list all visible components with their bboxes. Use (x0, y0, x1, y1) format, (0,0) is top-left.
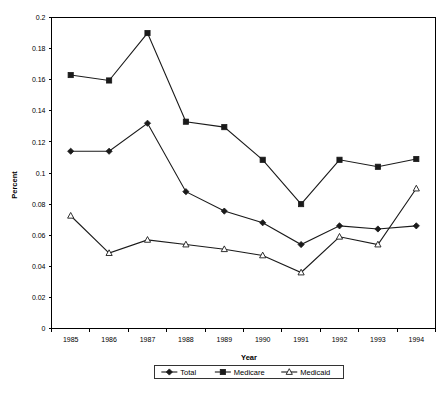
y-tick-label: 0.2 (36, 14, 46, 21)
x-tick-label: 1992 (332, 336, 348, 343)
marker-square (183, 119, 188, 124)
y-tick-label: 0.14 (32, 107, 46, 114)
y-tick-label: 0.06 (32, 232, 46, 239)
marker-square (68, 72, 73, 77)
x-tick-label: 1989 (217, 336, 233, 343)
legend-label: Medicare (234, 368, 265, 377)
marker-square (299, 202, 304, 207)
marker-square (414, 156, 419, 161)
y-tick-label: 0.12 (32, 139, 46, 146)
marker-square (337, 157, 342, 162)
y-tick-label: 0.08 (32, 201, 46, 208)
chart-figure: 00.020.040.060.080.10.120.140.160.180.2 … (0, 0, 447, 398)
legend-label: Medicaid (300, 368, 330, 377)
legend-label: Total (180, 368, 196, 377)
marker-square (107, 78, 112, 83)
x-tick-label: 1994 (409, 336, 425, 343)
y-tick-label: 0 (42, 325, 46, 332)
x-tick-label: 1990 (255, 336, 271, 343)
line-chart: 00.020.040.060.080.10.120.140.160.180.2 … (0, 0, 447, 398)
y-tick-label: 0.02 (32, 294, 46, 301)
chart-legend: TotalMedicareMedicaid (154, 366, 343, 379)
x-tick-label: 1986 (101, 336, 117, 343)
marker-square (220, 369, 225, 374)
x-tick-label: 1991 (293, 336, 309, 343)
y-axis-title: Percent (10, 171, 19, 199)
y-tick-label: 0.18 (32, 45, 46, 52)
marker-square (260, 157, 265, 162)
marker-square (145, 30, 150, 35)
y-tick-label: 0.16 (32, 76, 46, 83)
x-axis-title: Year (241, 353, 257, 362)
x-tick-label: 1993 (370, 336, 386, 343)
x-tick-label: 1988 (178, 336, 194, 343)
marker-square (375, 164, 380, 169)
x-tick-label: 1985 (63, 336, 79, 343)
x-tick-label: 1987 (140, 336, 156, 343)
y-tick-label: 0.1 (36, 170, 46, 177)
y-tick-label: 0.04 (32, 263, 46, 270)
marker-square (222, 125, 227, 130)
